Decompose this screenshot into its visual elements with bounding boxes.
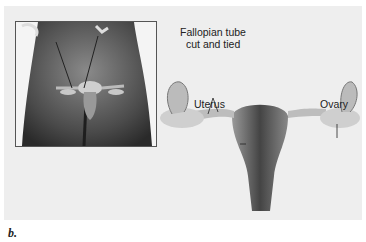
label-uterus: Uterus xyxy=(194,98,225,110)
label-fallopian-tube-line2: cut and tied xyxy=(186,38,240,50)
label-fallopian-tube-line1: Fallopian tube xyxy=(180,26,246,38)
torso-illustration xyxy=(16,22,156,146)
label-ovary: Ovary xyxy=(320,98,348,110)
uterus-illustration xyxy=(154,46,364,216)
figure-panel: Fallopian tube cut and tied Uterus Ovary xyxy=(4,6,362,220)
inset-body-illustration xyxy=(15,21,157,147)
figure-caption: b. xyxy=(8,226,17,241)
